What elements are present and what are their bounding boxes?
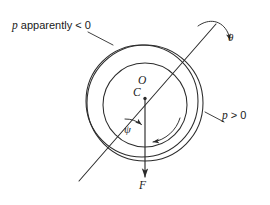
point-marker-C bbox=[143, 97, 146, 100]
label-angle-psi: ψ bbox=[124, 124, 131, 135]
label-force-F: F bbox=[139, 180, 146, 192]
label-p-apparently-negative: p apparently < 0 bbox=[12, 20, 91, 32]
angle-arrow-theta bbox=[198, 21, 230, 40]
label-p-negative-relation: < 0 bbox=[75, 19, 91, 31]
label-centre-C: C bbox=[133, 87, 141, 99]
leader-line-p-negative bbox=[88, 32, 113, 45]
label-p-negative-words: apparently bbox=[21, 19, 72, 31]
label-p-positive-relation: > 0 bbox=[231, 109, 247, 121]
diagonal-axis-line bbox=[79, 24, 216, 181]
figure-root: p apparently < 0 p > 0 O C ψ θ F bbox=[0, 0, 270, 205]
label-angle-theta: θ bbox=[228, 32, 233, 43]
label-centre-O: O bbox=[138, 75, 146, 87]
label-p-positive: p > 0 bbox=[222, 110, 246, 122]
spin-arrow-inner bbox=[153, 118, 180, 142]
